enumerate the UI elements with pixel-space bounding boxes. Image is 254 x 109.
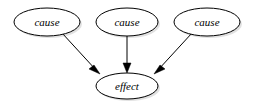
causal-diagram: cause cause cause effect: [0, 0, 254, 109]
effect-node-label: effect: [115, 80, 140, 92]
cause-node-3[interactable]: cause: [174, 8, 240, 36]
edge-cause3-to-effect-arrowhead: [154, 65, 165, 74]
edge-cause1-to-effect[interactable]: [62, 33, 100, 74]
cause-node-2[interactable]: cause: [96, 8, 158, 36]
cause-node-2-label: cause: [114, 16, 139, 28]
edge-cause1-to-effect-line: [62, 33, 96, 70]
edge-cause1-to-effect-arrowhead: [89, 65, 100, 74]
effect-node[interactable]: effect: [96, 73, 158, 99]
cause-node-1[interactable]: cause: [14, 8, 80, 36]
edge-cause3-to-effect-line: [158, 33, 192, 70]
cause-node-1-label: cause: [34, 16, 59, 28]
edge-cause2-to-effect[interactable]: [123, 36, 131, 73]
causal-diagram-canvas: cause cause cause effect: [0, 0, 254, 109]
edge-cause3-to-effect[interactable]: [154, 33, 192, 74]
cause-node-3-label: cause: [194, 16, 219, 28]
edge-layer: [62, 33, 192, 74]
edge-cause2-to-effect-arrowhead: [123, 63, 131, 73]
